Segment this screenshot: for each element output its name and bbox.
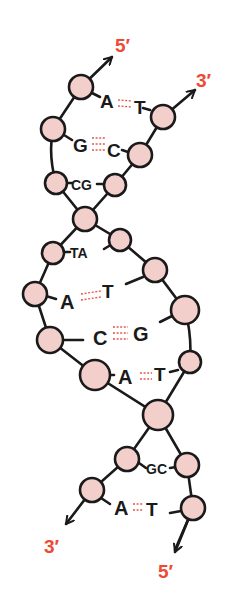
- label-5prime-top: 5′: [115, 35, 131, 56]
- node: [42, 242, 64, 264]
- base-T-9: T: [146, 499, 158, 520]
- node: [23, 282, 47, 306]
- base-pair-CG: CG: [71, 177, 92, 193]
- base-C-2: C: [107, 140, 121, 161]
- base-A-5: A: [60, 291, 74, 313]
- base-pair-GC: GC: [146, 461, 167, 477]
- node: [179, 351, 201, 373]
- base-T-7: T: [154, 364, 166, 385]
- node: [109, 229, 131, 251]
- base-G-6: G: [133, 323, 149, 345]
- node: [45, 172, 67, 194]
- node: [104, 174, 126, 196]
- base-G-2: G: [73, 135, 88, 156]
- node: [80, 478, 104, 502]
- node: [128, 143, 152, 167]
- base-A-9: A: [114, 497, 128, 519]
- dna-helix-diagram: A T G C CG TA A T C G A T GC A T 5′ 3′ 3…: [0, 0, 229, 608]
- base-pair-TA: TA: [70, 245, 88, 261]
- node: [143, 258, 167, 282]
- node: [175, 453, 199, 477]
- node: [115, 447, 139, 471]
- base-A-7: A: [118, 366, 132, 388]
- node: [37, 327, 63, 353]
- base-A-1: A: [100, 91, 114, 112]
- base-T-5: T: [102, 281, 114, 302]
- node-crossover-bottom: [143, 400, 173, 430]
- base-C-6: C: [93, 327, 107, 349]
- node: [80, 360, 110, 390]
- label-5prime-bottom: 5′: [158, 561, 174, 582]
- node: [151, 105, 175, 129]
- node: [181, 496, 205, 520]
- node: [41, 117, 65, 141]
- node: [69, 75, 93, 99]
- node-crossover-top: [73, 207, 97, 231]
- label-3prime-top: 3′: [196, 70, 212, 91]
- node: [171, 296, 199, 324]
- base-T-1: T: [134, 97, 146, 118]
- label-3prime-bottom: 3′: [44, 536, 60, 557]
